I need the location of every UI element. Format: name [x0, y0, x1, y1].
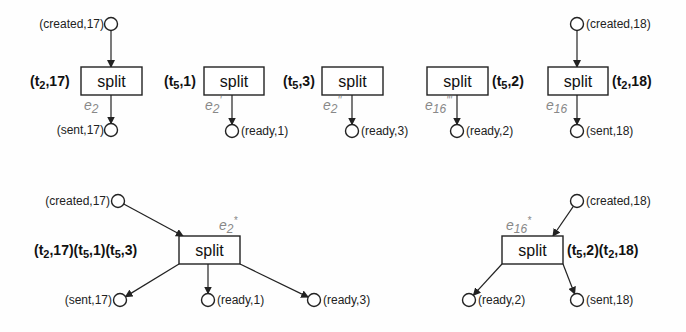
place-label: (created,18)	[586, 17, 651, 31]
binding-label: (t5,2)	[492, 73, 524, 91]
transition-label: split	[338, 73, 367, 90]
transition-label: split	[97, 73, 126, 90]
place-circle	[308, 294, 321, 307]
event-label: e16	[546, 97, 567, 116]
event-label: e2*	[219, 215, 238, 236]
place-label: (sent,18)	[586, 124, 633, 138]
place-circle	[463, 294, 476, 307]
binding-label: (t5,2)(t2,18)	[567, 242, 638, 260]
transition-label: split	[443, 73, 472, 90]
place-circle	[571, 294, 584, 307]
event-label: e2''	[323, 95, 342, 116]
binding-label: (t2,17)(t5,1)(t5,3)	[34, 242, 137, 260]
transition-label: split	[564, 73, 593, 90]
binding-label: (t5,3)	[283, 73, 315, 91]
place-label: (ready,3)	[323, 293, 370, 307]
transition-label: split	[220, 73, 249, 90]
place-label: (ready,1)	[217, 293, 264, 307]
place-label: (created,17)	[39, 17, 104, 31]
petri-net-diagram: (created,17)(sent,17)split(t2,17)e2(read…	[0, 0, 686, 332]
place-circle	[451, 125, 464, 138]
place-circle	[226, 125, 239, 138]
place-label: (sent,17)	[65, 293, 112, 307]
place-label: (ready,2)	[478, 293, 525, 307]
event-label: e2	[84, 97, 99, 116]
place-label: (created,18)	[586, 194, 651, 208]
output-arc	[563, 264, 575, 294]
event-label: e16'''	[425, 95, 453, 116]
place-circle	[114, 294, 127, 307]
place-label: (ready,3)	[361, 124, 408, 138]
output-arc	[126, 264, 179, 297]
binding-label: (t5,1)	[164, 73, 196, 91]
binding-label: (t2,18)	[612, 73, 652, 91]
event-label: e16*	[506, 215, 532, 236]
input-arc	[553, 206, 573, 236]
output-arc	[473, 264, 502, 295]
event-label: e2'	[205, 95, 222, 116]
place-circle	[571, 18, 584, 31]
transition-label: split	[195, 242, 224, 259]
place-circle	[112, 195, 125, 208]
input-arc	[124, 204, 183, 236]
place-circle	[202, 294, 215, 307]
place-circle	[105, 18, 118, 31]
place-circle	[571, 195, 584, 208]
place-label: (ready,2)	[466, 124, 513, 138]
place-circle	[105, 124, 118, 137]
transition-label: split	[518, 242, 547, 259]
place-label: (sent,18)	[586, 293, 633, 307]
place-label: (created,17)	[45, 194, 110, 208]
place-label: (ready,1)	[241, 124, 288, 138]
diagram-svg: (created,17)(sent,17)split(t2,17)e2(read…	[0, 0, 686, 332]
place-label: (sent,17)	[57, 123, 104, 137]
place-circle	[346, 125, 359, 138]
place-circle	[571, 125, 584, 138]
binding-label: (t2,17)	[30, 73, 70, 91]
